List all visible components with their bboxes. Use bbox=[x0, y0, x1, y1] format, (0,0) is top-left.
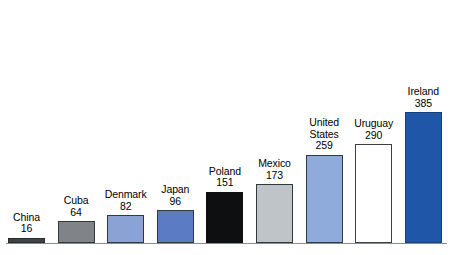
bar-label: Uruguay290 bbox=[354, 118, 393, 141]
bar-category-text: United bbox=[309, 117, 339, 129]
bar-value-text: 82 bbox=[105, 201, 147, 213]
bar-value-text: 96 bbox=[161, 196, 189, 208]
bar-group[interactable]: Japan96 bbox=[157, 210, 194, 243]
bar-rect[interactable] bbox=[256, 184, 293, 243]
bar-value-text: 173 bbox=[258, 170, 291, 182]
bar-category-text: Poland bbox=[209, 166, 241, 178]
bar-category-text: Ireland bbox=[408, 86, 439, 98]
bar-rect[interactable] bbox=[306, 155, 343, 243]
bar-label: Ireland385 bbox=[408, 86, 439, 109]
bar-chart: China16Cuba64Denmark82Japan96Poland151Me… bbox=[0, 0, 453, 255]
bar-group[interactable]: Denmark82 bbox=[107, 215, 144, 243]
plot-area: China16Cuba64Denmark82Japan96Poland151Me… bbox=[0, 0, 453, 255]
bar-rect[interactable] bbox=[355, 144, 392, 243]
bar-value-text: 64 bbox=[64, 207, 89, 219]
bar-group[interactable]: Mexico173 bbox=[256, 184, 293, 243]
bar-category-text: Mexico bbox=[258, 158, 291, 170]
bar-group[interactable]: Ireland385 bbox=[405, 112, 442, 243]
bar-category-text: China bbox=[13, 212, 40, 224]
bar-label: Denmark82 bbox=[105, 189, 147, 212]
bar-rect[interactable] bbox=[157, 210, 194, 243]
bar-label: Cuba64 bbox=[64, 195, 89, 218]
bar-group[interactable]: Uruguay290 bbox=[355, 144, 392, 243]
bar-category-text: Japan bbox=[161, 184, 189, 196]
bar-value-text: 290 bbox=[354, 130, 393, 142]
bar-rect[interactable] bbox=[107, 215, 144, 243]
bar-value-text: 385 bbox=[408, 98, 439, 110]
bar-group[interactable]: Cuba64 bbox=[58, 221, 95, 243]
bar-rect[interactable] bbox=[206, 192, 243, 243]
bar-label: Japan96 bbox=[161, 184, 189, 207]
bar-category-text: Uruguay bbox=[354, 118, 393, 130]
bar-label: China16 bbox=[13, 212, 40, 235]
bar-category-text: Denmark bbox=[105, 189, 147, 201]
bar-value-text: 259 bbox=[309, 140, 339, 152]
bar-value-text: 151 bbox=[209, 177, 241, 189]
bar-rect[interactable] bbox=[405, 112, 442, 243]
bar-rect[interactable] bbox=[8, 238, 45, 243]
bar-label: UnitedStates259 bbox=[309, 117, 339, 152]
bar-category-text: Cuba bbox=[64, 195, 89, 207]
bar-value-text: 16 bbox=[13, 223, 40, 235]
bar-group[interactable]: UnitedStates259 bbox=[306, 155, 343, 243]
bar-rect[interactable] bbox=[58, 221, 95, 243]
bar-label: Poland151 bbox=[209, 166, 241, 189]
bar-label: Mexico173 bbox=[258, 158, 291, 181]
bar-group[interactable]: Poland151 bbox=[206, 192, 243, 243]
x-axis-baseline bbox=[6, 243, 447, 244]
bar-group[interactable]: China16 bbox=[8, 238, 45, 243]
